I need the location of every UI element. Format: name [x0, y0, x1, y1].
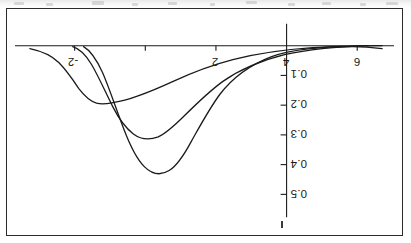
y-axis-ticks: [281, 75, 287, 194]
x-tick-label-6: 6: [354, 56, 361, 68]
x-tick-label-2: 2: [212, 56, 219, 68]
y-tick-label-0-2: 0.2: [290, 98, 307, 110]
x-tick-label-4: 4: [283, 56, 290, 68]
line-chart-plot: [7, 9, 402, 235]
y-tick-label-0-1: 0.1: [290, 68, 307, 80]
y-tick-label-0-4: 0.4: [290, 158, 307, 170]
stray-mark: [281, 221, 283, 228]
y-tick-label-0-3: 0.3: [290, 128, 307, 140]
x-tick-label-minus-2: -2: [68, 56, 79, 68]
y-tick-label-0-5: 0.5: [290, 188, 307, 200]
scanned-figure-page: 6 4 2 -2 0.1 0.2 0.3 0.4 0.5: [0, 0, 411, 243]
rotated-plot-container: 6 4 2 -2 0.1 0.2 0.3 0.4 0.5: [7, 9, 402, 235]
figure-frame: 6 4 2 -2 0.1 0.2 0.3 0.4 0.5: [6, 8, 403, 236]
curve-3: [84, 47, 382, 174]
curve-2: [73, 46, 369, 139]
